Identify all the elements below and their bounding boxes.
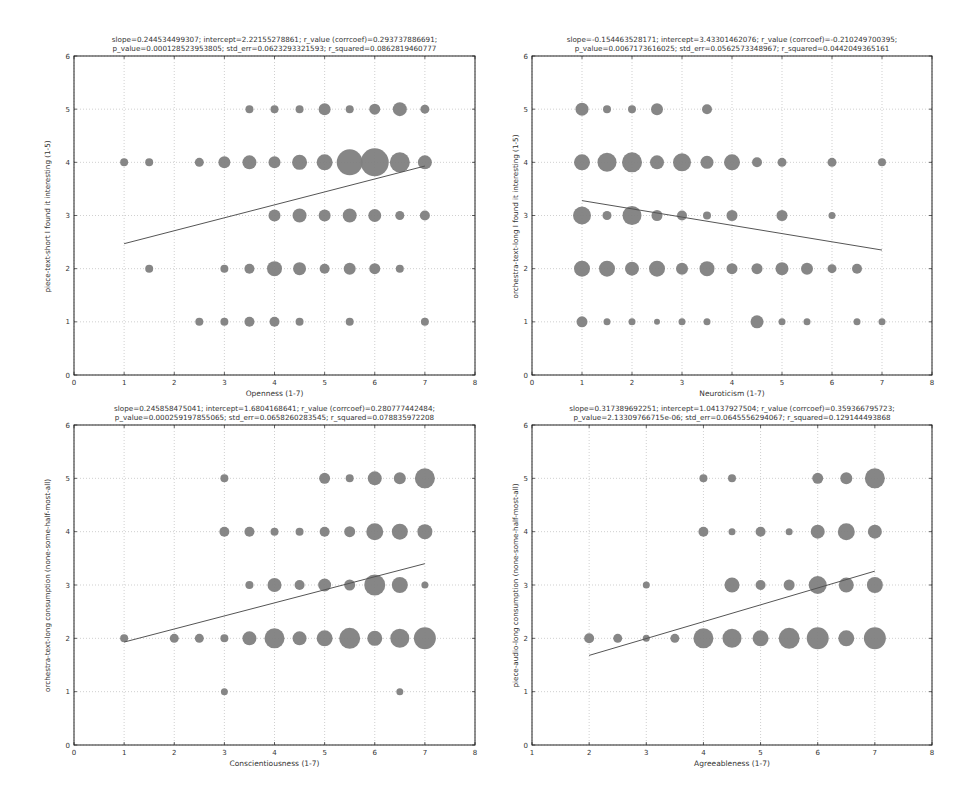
data-point [643,582,650,589]
data-point [840,472,852,484]
data-point [811,525,825,539]
data-point [867,577,883,593]
data-point [756,580,766,590]
x-tick-label: 5 [758,749,762,757]
x-tick-label: 7 [873,749,877,757]
x-tick-label: 3 [644,749,648,757]
x-tick-label: 2 [587,749,591,757]
data-point [838,630,854,646]
y-tick-label: 5 [524,475,528,483]
x-axis-label: Agreeableness (1-7) [532,759,932,768]
x-tick-label: 8 [930,749,934,757]
data-point [812,473,823,484]
y-tick-label: 0 [524,742,528,750]
data-point [693,628,713,648]
x-tick-label: 6 [815,749,820,757]
data-point [670,634,679,643]
data-point [723,629,742,648]
x-tick-label: 1 [530,749,534,757]
data-point [786,528,793,535]
data-point [756,527,766,537]
data-point [807,627,829,649]
data-point [584,633,594,643]
data-point [699,474,707,482]
data-point [725,578,740,593]
y-tick-label: 1 [524,688,528,696]
data-point [865,468,885,488]
data-point [698,527,708,537]
data-point [838,523,855,540]
y-tick-label: 6 [524,422,529,430]
data-point [809,576,827,594]
data-point [753,630,769,646]
data-point [868,525,882,539]
chart-agreeableness: slope=0.317389692251; intercept=1.041379… [0,0,979,804]
data-point [728,474,736,482]
y-tick-label: 2 [524,635,528,643]
data-point [864,627,886,649]
y-tick-label: 4 [524,528,529,536]
data-point [729,528,736,535]
plot-area: 123456780123456 [0,0,979,804]
y-tick-label: 3 [524,582,528,590]
y-axis-label: piece-audio-long consumption (none-some-… [511,436,520,736]
data-point [784,580,795,591]
scatter-points [584,468,886,649]
x-tick-label: 4 [701,749,706,757]
data-point [613,634,622,643]
data-point [779,628,800,649]
